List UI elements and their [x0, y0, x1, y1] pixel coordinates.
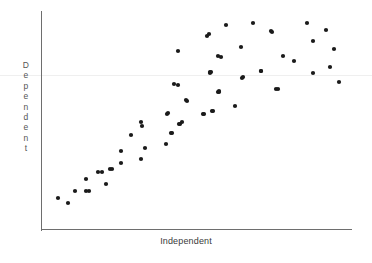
- data-point: [324, 28, 328, 32]
- scatter-plot-figure: Dependent Independent: [0, 0, 372, 263]
- data-point: [259, 69, 263, 73]
- data-point: [217, 89, 221, 93]
- data-point: [337, 80, 341, 84]
- data-point: [332, 47, 336, 51]
- y-axis-label-letter: p: [18, 81, 34, 91]
- y-axis-label-letter: t: [18, 143, 34, 153]
- data-point: [172, 82, 176, 86]
- x-axis-label: Independent: [0, 236, 372, 246]
- data-point: [202, 112, 206, 116]
- data-point: [207, 32, 211, 36]
- data-point: [119, 149, 123, 153]
- data-point: [143, 146, 147, 150]
- data-point: [185, 99, 189, 103]
- y-axis-label-letter: e: [18, 122, 34, 132]
- data-point: [328, 65, 332, 69]
- data-point: [139, 120, 143, 124]
- y-axis-label-letter: D: [18, 60, 34, 70]
- data-point: [56, 196, 60, 200]
- data-point: [292, 59, 296, 63]
- y-axis-label-letter: e: [18, 91, 34, 101]
- data-point: [139, 157, 143, 161]
- data-point: [164, 142, 168, 146]
- data-point: [180, 120, 184, 124]
- y-axis-label-letter: d: [18, 112, 34, 122]
- y-axis-label-letter: n: [18, 133, 34, 143]
- data-point: [305, 21, 309, 25]
- data-point: [233, 104, 237, 108]
- data-point: [270, 30, 274, 34]
- data-point: [110, 167, 114, 171]
- data-point: [251, 21, 255, 25]
- data-point: [73, 189, 77, 193]
- data-point: [241, 75, 245, 79]
- axes-group: [41, 11, 352, 231]
- data-point: [140, 124, 144, 128]
- data-point: [211, 109, 215, 113]
- y-axis-label-letter: e: [18, 70, 34, 80]
- data-point: [311, 39, 315, 43]
- data-point: [311, 71, 315, 75]
- y-axis-label-letter: n: [18, 102, 34, 112]
- data-point: [176, 83, 180, 87]
- data-point: [239, 45, 243, 49]
- data-point: [87, 189, 91, 193]
- data-point: [66, 201, 70, 205]
- plot-canvas: [0, 0, 372, 263]
- data-point: [276, 87, 280, 91]
- data-point: [104, 182, 108, 186]
- data-point: [96, 170, 100, 174]
- data-point: [209, 70, 213, 74]
- data-point: [219, 55, 223, 59]
- y-axis-label: Dependent: [18, 60, 34, 154]
- data-point: [224, 23, 228, 27]
- data-point: [281, 54, 285, 58]
- data-point: [100, 170, 104, 174]
- data-points-layer: [56, 21, 341, 205]
- data-point: [170, 131, 174, 135]
- data-point: [84, 177, 88, 181]
- data-point: [176, 49, 180, 53]
- data-point: [166, 111, 170, 115]
- data-point: [119, 161, 123, 165]
- data-point: [129, 133, 133, 137]
